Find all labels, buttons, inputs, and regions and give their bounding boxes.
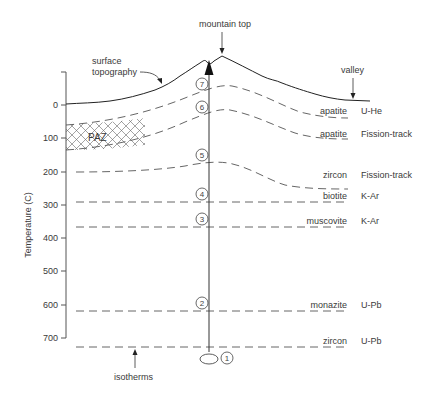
method-label: U-He bbox=[361, 106, 382, 116]
marker-5: 5 bbox=[200, 151, 205, 160]
tick-100: 100 bbox=[43, 133, 58, 143]
method-label: K-Ar bbox=[361, 216, 379, 226]
method-label: U-Pb bbox=[361, 300, 382, 310]
marker-6: 6 bbox=[200, 103, 205, 112]
valley-arrow-icon bbox=[351, 93, 356, 99]
marker-1: 1 bbox=[225, 354, 230, 363]
marker-3: 3 bbox=[200, 215, 205, 224]
marker-2: 2 bbox=[200, 299, 205, 308]
mineral-label: muscovite bbox=[306, 216, 347, 226]
tick-0: 0 bbox=[53, 100, 58, 110]
mineral-label: apatite bbox=[320, 106, 347, 116]
mineral-label: biotite bbox=[323, 191, 347, 201]
markers: 1 2 3 4 5 6 7 bbox=[196, 78, 233, 364]
marker-7: 7 bbox=[200, 80, 205, 89]
mountain-top-arrow-icon bbox=[220, 48, 225, 54]
mineral-label: zircon bbox=[323, 336, 347, 346]
tick-400: 400 bbox=[43, 233, 58, 243]
surface-label-line1: surface bbox=[92, 56, 122, 66]
surface-label-line2: topography bbox=[92, 67, 138, 77]
valley-label: valley bbox=[341, 65, 365, 75]
tick-300: 300 bbox=[43, 200, 58, 210]
isotherm-zircon-ft bbox=[76, 162, 348, 189]
system-labels: apatite U-He apatite Fission-track zirco… bbox=[306, 106, 412, 346]
surface-arrow-icon bbox=[157, 78, 162, 84]
rock-sample-icon bbox=[200, 354, 218, 364]
mountain-top-label: mountain top bbox=[199, 19, 251, 29]
tick-700: 700 bbox=[43, 333, 58, 343]
y-axis: 0 100 200 300 400 500 600 700 Temperatur… bbox=[23, 72, 66, 343]
method-label: K-Ar bbox=[361, 191, 379, 201]
y-axis-label: Temperature (C) bbox=[23, 192, 33, 258]
isotherm-diagram: 0 100 200 300 400 500 600 700 Temperatur… bbox=[0, 0, 435, 395]
tick-200: 200 bbox=[43, 167, 58, 177]
tick-500: 500 bbox=[43, 266, 58, 276]
mineral-label: zircon bbox=[323, 170, 347, 180]
isotherms-label: isotherms bbox=[114, 372, 154, 382]
method-label: Fission-track bbox=[361, 170, 413, 180]
mineral-label: monazite bbox=[310, 300, 347, 310]
method-label: U-Pb bbox=[361, 336, 382, 346]
isotherms-arrow-icon bbox=[133, 349, 138, 355]
mineral-label: apatite bbox=[320, 129, 347, 139]
method-label: Fission-track bbox=[361, 129, 413, 139]
tick-600: 600 bbox=[43, 300, 58, 310]
paz-label: PAZ bbox=[88, 132, 107, 143]
marker-4: 4 bbox=[200, 190, 205, 199]
